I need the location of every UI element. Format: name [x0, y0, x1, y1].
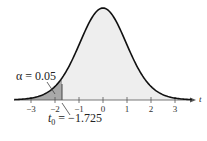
- tick-label: 0: [101, 104, 106, 114]
- alpha-label: α = 0.05: [16, 69, 56, 84]
- tick-label: −3: [26, 104, 36, 114]
- curve-area: [14, 8, 192, 100]
- tick-label: 2: [149, 104, 154, 114]
- tick-label: −1: [74, 104, 84, 114]
- axis-label: t: [199, 94, 202, 104]
- tick-label: −2: [50, 104, 60, 114]
- tick-label: 3: [173, 104, 178, 114]
- tick-label: 1: [125, 104, 130, 114]
